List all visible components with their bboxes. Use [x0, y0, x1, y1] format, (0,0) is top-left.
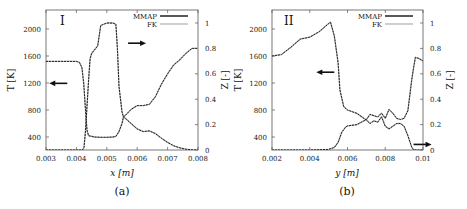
y-tick-label-left: 1600 — [249, 53, 267, 61]
y-tick-label-right: 0.2 — [205, 121, 216, 129]
y-tick-label-right: 0.4 — [205, 96, 217, 104]
arrowhead-left-icon — [49, 81, 55, 87]
figure: 0.0030.0040.0050.0060.0070.0084008001200… — [0, 0, 467, 209]
y-tick-label-right: 0.8 — [430, 45, 441, 53]
figure-caption: (b) — [339, 185, 355, 198]
x-tick-label: 0.004 — [66, 155, 87, 163]
y-axis-label-right: Z [-] — [445, 70, 455, 89]
series-line-z-mmap — [46, 23, 198, 150]
panel-tag: II — [284, 14, 294, 28]
arrowhead-right-icon — [140, 40, 146, 46]
y-tick-label-left: 2000 — [249, 26, 267, 34]
series-line-z-mmap — [272, 57, 423, 150]
x-tick-label: 0.002 — [262, 155, 282, 163]
plot-frame — [46, 10, 198, 150]
y-axis-label-left: T [K] — [6, 69, 16, 92]
plot-frame — [272, 10, 423, 150]
y-tick-label-right: 0.6 — [430, 70, 442, 78]
x-tick-label: 0.003 — [36, 155, 56, 163]
chart-panel-a: 0.0030.0040.0050.0060.0070.0084008001200… — [6, 10, 230, 198]
y-tick-label-left: 800 — [28, 107, 41, 115]
y-tick-label-left: 800 — [254, 107, 267, 115]
legend-label-fk: FK — [372, 21, 383, 29]
legend-label-mmap: MMAP — [133, 13, 157, 21]
y-tick-label-left: 400 — [254, 134, 267, 142]
x-tick-label: 0.006 — [127, 155, 148, 163]
x-tick-label: 0.008 — [375, 155, 395, 163]
legend-label-mmap: MMAP — [358, 13, 382, 21]
series-line-z-fk — [46, 23, 198, 150]
series-line-t-mmap — [46, 61, 198, 150]
x-tick-label: 0.006 — [337, 155, 358, 163]
y-tick-label-left: 400 — [28, 134, 41, 142]
series-line-t-mmap — [272, 22, 423, 150]
y-tick-label-right: 0 — [205, 147, 209, 155]
y-tick-label-left: 2000 — [23, 26, 41, 34]
y-tick-label-right: 1 — [205, 20, 209, 28]
chart-panel-b: 0.0020.0040.0060.0080.014008001200160020… — [233, 10, 455, 198]
series-line-z-fk — [272, 57, 423, 150]
series-line-t-fk — [272, 22, 423, 150]
x-tick-label: 0.004 — [300, 155, 321, 163]
y-tick-label-left: 1200 — [23, 80, 41, 88]
y-axis-label-right: Z [-] — [220, 70, 230, 89]
y-tick-label-right: 1 — [430, 20, 434, 28]
x-axis-label: y [m] — [334, 168, 359, 178]
x-tick-label: 0.008 — [188, 155, 208, 163]
y-tick-label-right: 0.4 — [430, 96, 442, 104]
y-tick-label-left: 1600 — [23, 53, 41, 61]
y-tick-label-right: 0.2 — [430, 121, 441, 129]
x-tick-label: 0.005 — [97, 155, 117, 163]
y-tick-label-right: 0.6 — [205, 70, 217, 78]
y-tick-label-right: 0 — [430, 147, 434, 155]
x-tick-label: 0.007 — [158, 155, 178, 163]
x-tick-label: 0.01 — [415, 155, 431, 163]
figure-caption: (a) — [114, 185, 129, 198]
y-tick-label-right: 0.8 — [205, 45, 216, 53]
y-axis-label-left: T [K] — [233, 69, 243, 92]
series-line-t-fk — [46, 61, 198, 150]
panel-tag: I — [60, 14, 65, 28]
y-tick-label-left: 1200 — [249, 80, 267, 88]
legend-label-fk: FK — [147, 21, 158, 29]
arrowhead-left-icon — [316, 69, 322, 75]
x-axis-label: x [m] — [110, 168, 134, 178]
